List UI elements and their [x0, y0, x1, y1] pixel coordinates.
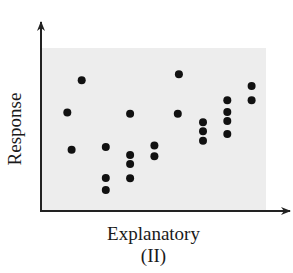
x-axis-label: Explanatory — [41, 223, 266, 245]
data-point — [174, 110, 182, 118]
data-point — [126, 160, 134, 168]
data-point — [199, 118, 207, 126]
data-point — [150, 152, 158, 160]
data-point — [223, 108, 231, 116]
data-point — [102, 186, 110, 194]
data-point — [68, 146, 76, 154]
data-point — [126, 110, 134, 118]
data-point — [126, 151, 134, 159]
plot-background — [41, 48, 266, 211]
data-point — [248, 82, 256, 90]
data-point — [78, 76, 86, 84]
data-point — [175, 70, 183, 78]
data-point — [248, 96, 256, 104]
data-point — [102, 174, 110, 182]
data-point — [199, 137, 207, 145]
y-axis-label: Response — [1, 84, 29, 174]
data-point — [63, 108, 71, 116]
data-point — [223, 130, 231, 138]
panel-label: (II) — [41, 245, 266, 267]
data-point — [126, 174, 134, 182]
data-point — [102, 143, 110, 151]
data-point — [150, 142, 158, 150]
data-point — [223, 96, 231, 104]
data-point — [199, 127, 207, 135]
data-point — [223, 117, 231, 125]
